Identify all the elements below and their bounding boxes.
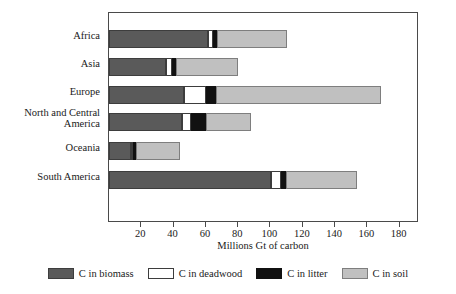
legend-label-deadwood: C in deadwood [179,268,243,279]
x-tick-label-0: 20 [135,228,146,239]
legend-swatch-biomass [48,268,74,279]
legend-label-litter: C in litter [287,268,327,279]
bar-segment-soil [216,86,381,104]
bar-segment-biomass [109,30,208,48]
legend-item-soil: C in soil [342,268,409,279]
x-tick-label-7: 160 [358,228,374,239]
bar-segment-soil [286,171,357,189]
legend-label-soil: C in soil [373,268,409,279]
x-tick-label-1: 40 [167,228,178,239]
y-axis-label-1: Asia [81,58,100,69]
x-tick-label-5: 120 [294,228,310,239]
y-axis-label-0: Africa [73,30,100,41]
bar-segment-litter [206,86,216,104]
bar-segment-deadwood [182,113,192,131]
x-tick-mark [334,222,335,227]
bar-row [109,113,251,131]
bar-segment-soil [217,30,286,48]
bar-segment-biomass [109,113,182,131]
x-tick-label-4: 100 [262,228,278,239]
x-tick-mark [140,222,141,227]
legend-swatch-soil [342,268,368,279]
bar-segment-litter [191,113,206,131]
x-tick-mark [366,222,367,227]
bar-segment-soil [206,113,251,131]
x-tick-mark [173,222,174,227]
bar-segment-deadwood [184,86,206,104]
legend-item-deadwood: C in deadwood [148,268,243,279]
x-tick-label-3: 80 [232,228,243,239]
legend-swatch-deadwood [148,268,174,279]
x-tick-label-8: 180 [391,228,407,239]
x-tick-mark [399,222,400,227]
bar-row [109,30,287,48]
bar-row [109,86,381,104]
x-axis-ticks: 20406080100120140160180 [0,222,456,240]
y-axis-label-2: Europe [70,86,100,97]
x-tick-label-6: 140 [326,228,342,239]
bar-rows [109,13,417,221]
chart-legend: C in biomassC in deadwoodC in litterC in… [0,262,456,284]
carbon-stacked-bar-chart: AfricaAsiaEuropeNorth and Central Americ… [0,0,456,294]
x-tick-label-2: 60 [200,228,211,239]
bar-segment-biomass [109,171,271,189]
bar-row [109,58,238,76]
legend-swatch-litter [256,268,282,279]
bar-row [109,171,357,189]
x-tick-mark [302,222,303,227]
y-axis-label-4: Oceania [66,142,100,153]
bar-segment-soil [176,58,238,76]
x-tick-mark [237,222,238,227]
legend-item-litter: C in litter [256,268,327,279]
bar-segment-soil [136,142,180,160]
y-axis-label-5: South America [37,171,100,182]
bar-segment-biomass [109,142,131,160]
y-axis-category-labels: AfricaAsiaEuropeNorth and Central Americ… [0,12,104,222]
bar-row [109,142,180,160]
legend-item-biomass: C in biomass [48,268,134,279]
bar-segment-deadwood [271,171,281,189]
x-tick-mark [269,222,270,227]
legend-label-biomass: C in biomass [79,268,134,279]
bar-segment-biomass [109,86,184,104]
bar-segment-biomass [109,58,166,76]
x-axis-title: Millions Gt of carbon [108,240,418,251]
y-axis-label-3: North and Central America [24,107,100,129]
x-tick-mark [205,222,206,227]
